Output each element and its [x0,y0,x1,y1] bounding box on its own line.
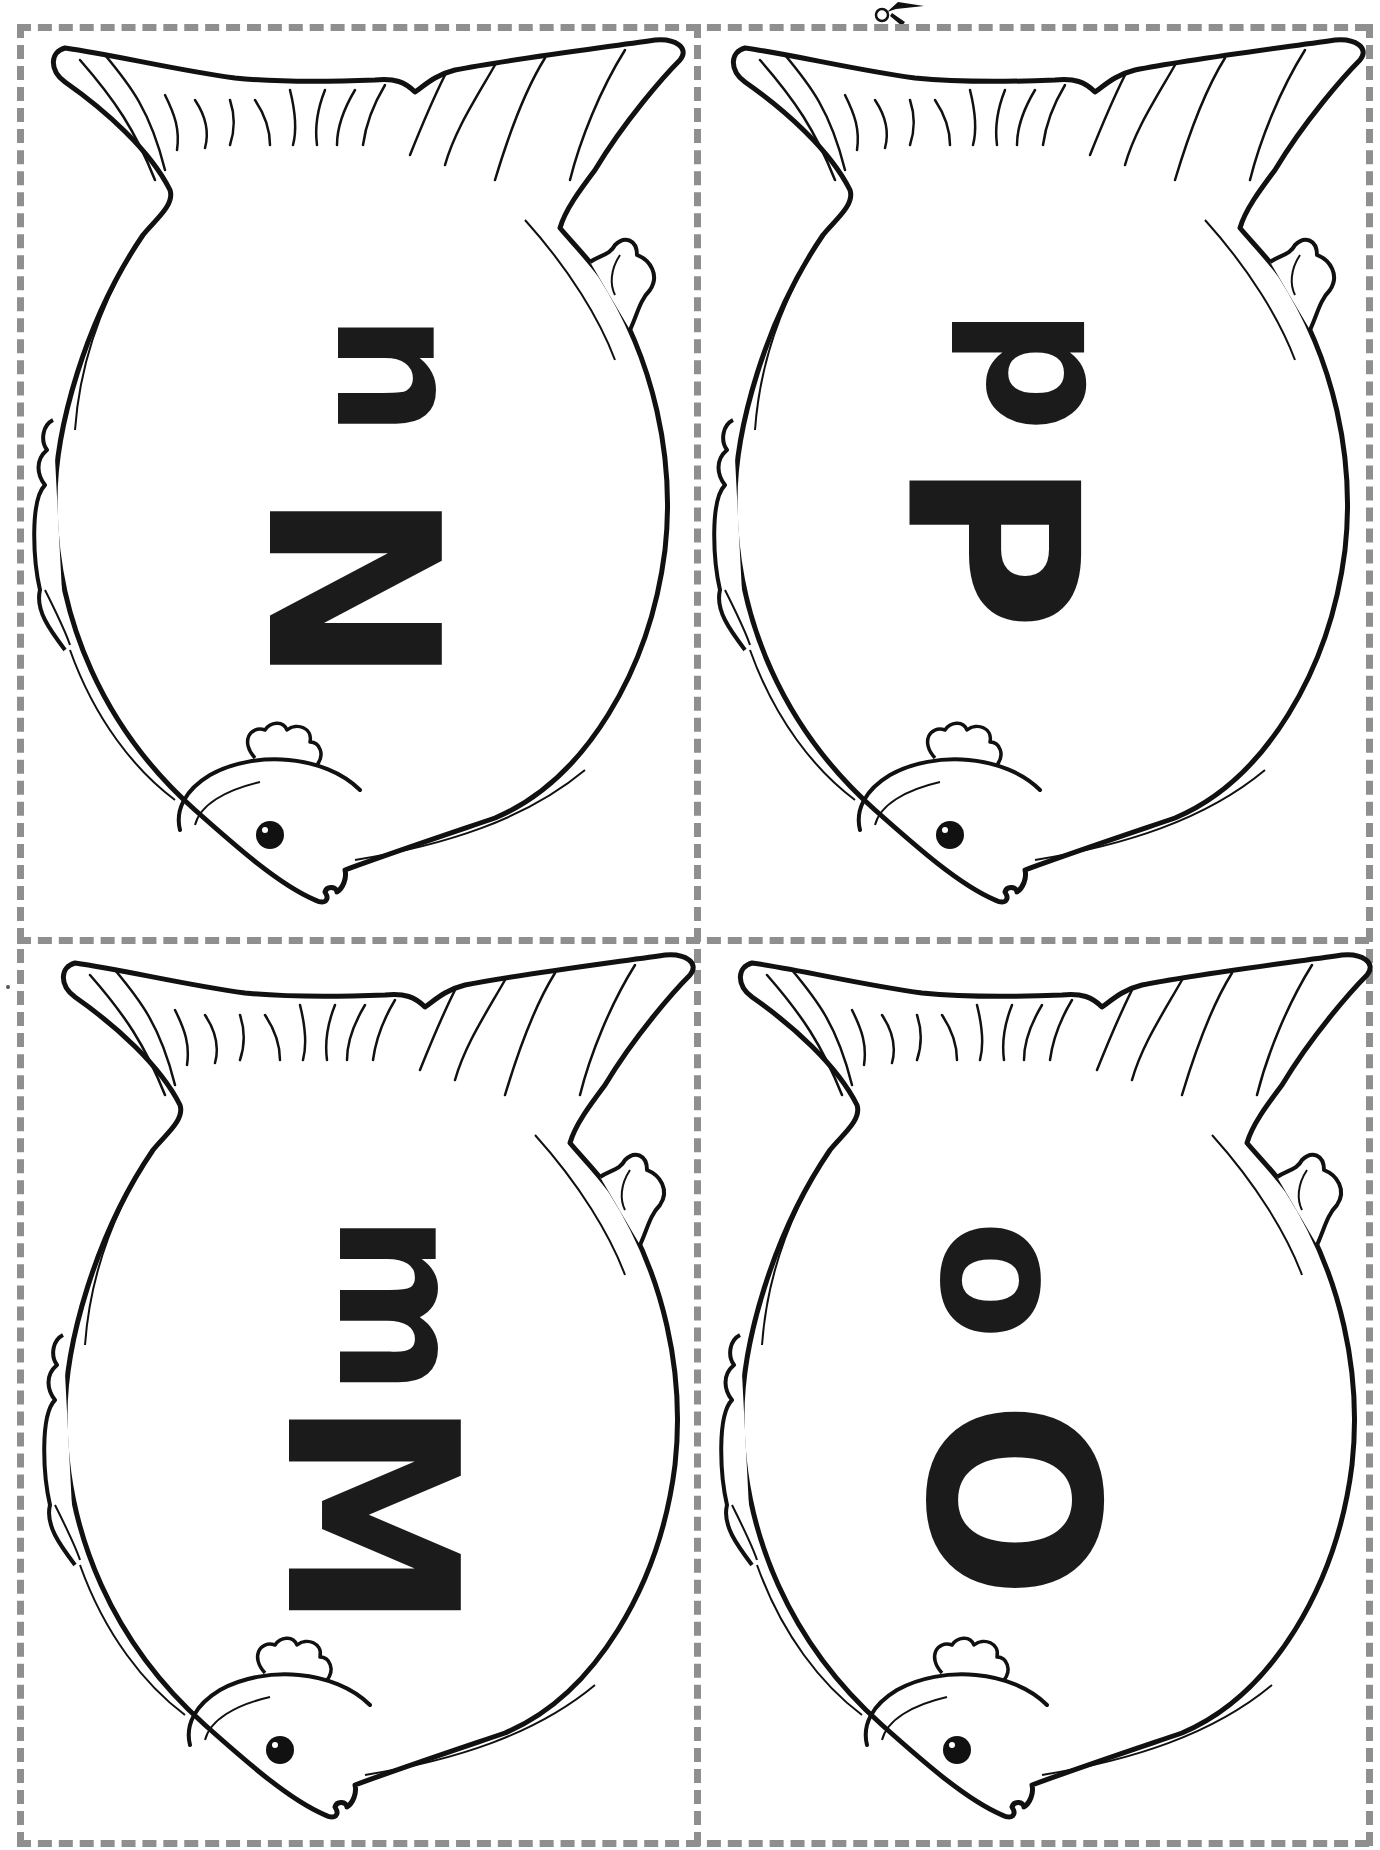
uppercase-letter: N [234,490,469,687]
uppercase-letter: O [893,1400,1128,1600]
fish-card-o: o O [712,945,1380,1845]
uppercase-letter: P [873,459,1108,631]
stray-mark [6,985,10,989]
uppercase-letter: M [253,1398,488,1632]
lowercase-letter: m [313,1214,488,1396]
lowercase-letter: o [915,1220,1090,1340]
fish-outline-icon [712,945,1380,1845]
fish-card-p: p P [705,30,1380,930]
fish-outline-icon [25,30,705,930]
cut-line-left [17,24,24,1846]
worksheet-page: n N p P m M o O [0,0,1380,1850]
fish-card-m: m M [35,945,715,1845]
lowercase-letter: p [961,307,1136,432]
lowercase-letter: n [311,313,486,438]
fish-card-n: n N [25,30,705,930]
cut-line-middle [17,937,1369,944]
